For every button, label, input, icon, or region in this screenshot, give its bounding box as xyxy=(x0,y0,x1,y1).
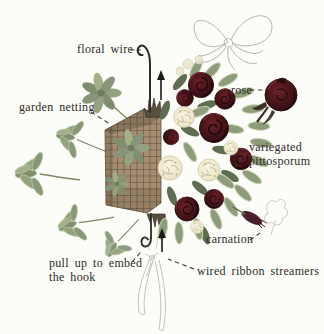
floral-wire-hook xyxy=(138,46,150,64)
garden-netting-foam-basket xyxy=(100,98,166,250)
label-pull-up-hook: pull up to embed the hook xyxy=(49,257,143,284)
label-floral-wire: floral wire xyxy=(77,43,133,57)
label-rose: rose xyxy=(231,84,252,98)
carnation-sketch xyxy=(264,200,287,235)
carnation-flower xyxy=(174,107,195,128)
label-garden-netting: garden netting xyxy=(19,101,95,115)
carnation-bud-detail xyxy=(233,200,288,235)
connector-streamers xyxy=(168,259,194,269)
label-carnation: carnation xyxy=(206,233,253,247)
pull-up-arrow-top xyxy=(157,70,165,100)
leaf-sprig-far-left xyxy=(14,151,80,197)
rose-bud-detail xyxy=(252,78,297,125)
ribbon-bow-sketch xyxy=(194,16,272,70)
botanical-diagram: floral wire garden netting rose variegat… xyxy=(0,0,324,334)
label-wired-ribbon-streamers: wired ribbon streamers xyxy=(197,265,319,279)
label-variegated-pittosporum: variegated pittosporum xyxy=(249,141,317,168)
